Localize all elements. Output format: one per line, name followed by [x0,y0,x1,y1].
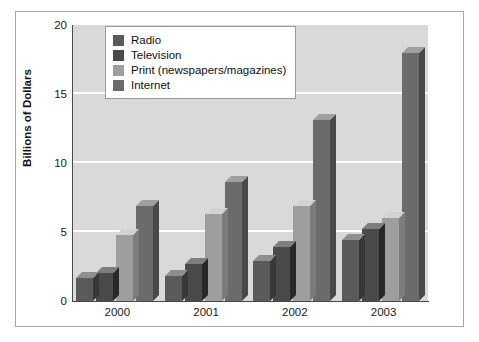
y-axis-label: Billions of Dollars [21,58,33,178]
legend-label: Internet [131,79,170,91]
bar [342,240,359,301]
bar-side-face [399,212,405,301]
y-axis-line [72,25,73,302]
y-axis-ticks: 05101520 [39,25,67,301]
bar-side-face [270,255,276,301]
legend-swatch-icon [113,65,124,76]
legend-item: Television [113,48,286,62]
bar-side-face [379,223,385,301]
bar-front-face [253,261,270,301]
y-tick-label: 20 [41,19,67,31]
y-tick-label: 10 [41,157,67,169]
x-axis-line [72,301,429,302]
chart-legend: RadioTelevisionPrint (newspapers/magazin… [105,26,296,99]
legend-item: Internet [113,78,286,92]
bar-side-face [330,114,336,301]
legend-swatch-icon [113,80,124,91]
legend-label: Radio [131,34,161,46]
bar-side-face [419,47,425,301]
x-tick-label: 2000 [73,306,162,318]
legend-item: Print (newspapers/magazines) [113,63,286,77]
legend-swatch-icon [113,35,124,46]
bar-side-face [153,200,159,301]
x-tick-label: 2001 [162,306,251,318]
bar-front-face [165,276,182,301]
bar-front-face [76,278,93,301]
bar [165,276,182,301]
legend-item: Radio [113,33,286,47]
y-tick-label: 15 [41,88,67,100]
bar-side-face [133,229,139,301]
bar-front-face [342,240,359,301]
bar-side-face [242,176,248,301]
bar-side-face [290,241,296,301]
legend-label: Print (newspapers/magazines) [131,64,286,76]
bar-side-face [359,234,365,301]
bar-group [339,25,428,301]
bar [253,261,270,301]
y-tick-label: 5 [41,226,67,238]
x-tick-label: 2003 [339,306,428,318]
bar-side-face [222,208,228,301]
y-tick-label: 0 [41,295,67,307]
legend-label: Television [131,49,182,61]
x-tick-label: 2002 [251,306,340,318]
bar-side-face [202,258,208,301]
bar [76,278,93,301]
bar-chart-figure: 05101520 2000200120022003 Billions of Do… [0,0,479,342]
bar-side-face [310,200,316,301]
legend-swatch-icon [113,50,124,61]
